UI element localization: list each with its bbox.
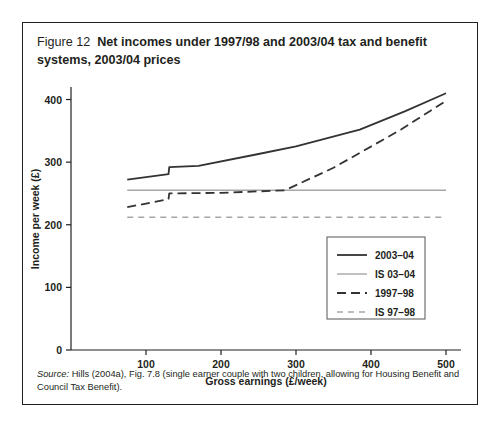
legend-label-is-03-04: IS 03–04 bbox=[375, 269, 415, 280]
y-axis-title: Income per week (£) bbox=[29, 169, 41, 269]
y-tick-label: 200 bbox=[44, 219, 62, 231]
y-tick-label: 400 bbox=[44, 94, 62, 106]
chart-legend: 2003–04IS 03–041997–98IS 97–98 bbox=[327, 237, 425, 319]
source-note: Source: Hills (2004a), Fig. 7.8 (single … bbox=[37, 368, 465, 394]
y-axis-ticks: 0100200300400 bbox=[44, 94, 71, 356]
legend-label-1997-98: 1997–98 bbox=[375, 288, 414, 299]
source-label: Source: bbox=[37, 369, 69, 379]
chart-plot-area: 0100200300400 100200300400500 Income per… bbox=[23, 23, 479, 406]
figure-container: Figure 12 Net incomes under 1997/98 and … bbox=[22, 22, 478, 405]
chart-series-layer bbox=[127, 93, 446, 217]
x-axis-ticks: 100200300400500 bbox=[137, 350, 455, 370]
y-tick-label: 100 bbox=[44, 281, 62, 293]
legend-label-2003-04: 2003–04 bbox=[375, 250, 414, 261]
series-line-2003-04 bbox=[127, 93, 446, 179]
y-tick-label: 0 bbox=[56, 344, 62, 356]
series-line-1997-98 bbox=[127, 101, 446, 207]
source-text: Hills (2004a), Fig. 7.8 (single earner c… bbox=[37, 369, 459, 392]
legend-label-is-97-98: IS 97–98 bbox=[375, 307, 415, 318]
y-tick-label: 300 bbox=[44, 156, 62, 168]
line-chart-svg: 0100200300400 100200300400500 Income per… bbox=[23, 23, 479, 406]
